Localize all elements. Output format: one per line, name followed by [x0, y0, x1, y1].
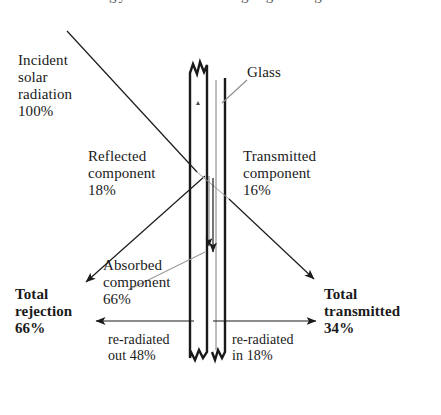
reradiated-in-label: re-radiated in 18% [232, 332, 294, 364]
reradiated-out-label: re-radiated out 48% [108, 332, 170, 364]
figure-canvas: Solar energy balance through glazing [0, 0, 441, 415]
transmitted-component-label: Transmitted component 16% [243, 148, 316, 199]
total-rejection-label: Total rejection 66% [15, 286, 72, 337]
glass-pane-right-edge [212, 78, 225, 360]
glass-surface-mark [196, 101, 200, 105]
incident-solar-radiation-label: Incident solar radiation 100% [18, 52, 72, 120]
transmitted-ray [229, 199, 314, 279]
glass-label: Glass [247, 64, 281, 81]
glass-pane-left-edge [190, 62, 207, 360]
absorbed-component-label: Absorbed component 66% [103, 257, 171, 308]
total-transmitted-label: Total transmitted 34% [324, 286, 400, 337]
reflected-component-label: Reflected component 18% [88, 148, 156, 199]
